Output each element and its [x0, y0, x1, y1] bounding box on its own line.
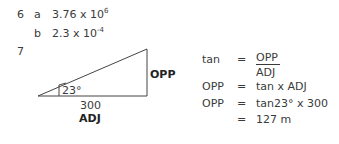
adjacent-label: ADJ	[79, 113, 101, 124]
equals-sign: =	[237, 114, 246, 125]
working-rhs: tan23° x 300	[256, 98, 328, 109]
opposite-label: OPP	[150, 69, 175, 80]
final-answer: 127 m	[256, 114, 291, 125]
working-lhs: OPP	[202, 81, 224, 92]
fraction-denominator: ADJ	[256, 67, 275, 78]
adjacent-value: 300	[80, 100, 101, 111]
working-lhs: tan	[202, 54, 220, 65]
equals-sign: =	[237, 98, 246, 109]
fraction-bar	[256, 64, 280, 65]
fraction-numerator: OPP	[256, 52, 278, 63]
working-lhs: OPP	[202, 98, 224, 109]
angle-label: 23°	[62, 85, 82, 96]
equals-sign: =	[237, 54, 246, 65]
working-rhs: tan x ADJ	[256, 81, 307, 92]
equals-sign: =	[237, 81, 246, 92]
